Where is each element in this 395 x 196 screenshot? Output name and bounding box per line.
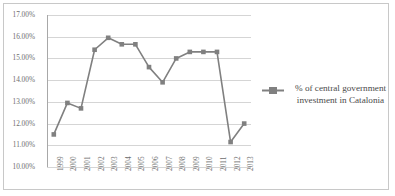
data-point-marker	[174, 56, 179, 61]
y-axis-tick-label: 16.00%	[0, 33, 35, 40]
data-point-marker	[147, 65, 152, 70]
data-point-marker	[52, 132, 57, 137]
x-axis-tick-label: 2001	[84, 156, 91, 171]
data-point-marker	[79, 106, 84, 111]
x-axis-tick-label: 2000	[70, 156, 77, 171]
legend-marker-icon	[262, 86, 284, 95]
data-point-marker	[92, 47, 97, 52]
data-point-marker	[160, 80, 165, 85]
series-line-chart	[47, 15, 251, 167]
data-point-marker	[120, 42, 125, 47]
y-axis-tick-label: 10.00%	[0, 163, 35, 170]
chart-legend: % of central government investment in Ca…	[262, 82, 395, 107]
x-axis-tick-label: 2013	[247, 156, 254, 171]
y-axis-tick-label: 12.00%	[0, 120, 35, 127]
y-axis-tick-label: 14.00%	[0, 76, 35, 83]
data-point-marker	[215, 50, 220, 55]
x-axis-tick-label: 2006	[152, 156, 159, 171]
x-axis-tick-label: 2009	[193, 156, 200, 171]
data-point-marker	[106, 36, 111, 41]
data-point-marker	[188, 50, 193, 55]
data-point-marker	[65, 101, 70, 106]
data-point-marker	[228, 140, 233, 145]
legend-label: % of central government investment in Ca…	[285, 82, 395, 107]
legend-entry: % of central government investment in Ca…	[262, 82, 395, 107]
data-point-marker	[133, 42, 138, 47]
x-axis-tick-label: 1999	[57, 156, 64, 171]
x-axis-tick-label: 2007	[166, 156, 173, 171]
plot-area	[47, 15, 251, 167]
data-point-marker	[242, 121, 247, 126]
x-axis-tick-label: 2004	[125, 156, 132, 171]
y-axis-tick-label: 15.00%	[0, 54, 35, 61]
y-axis-tick-label: 17.00%	[0, 11, 35, 18]
y-axis-tick-label: 11.00%	[0, 141, 35, 148]
x-axis-tick-label: 2011	[220, 157, 227, 171]
x-axis-tick-label: 2008	[179, 156, 186, 171]
x-axis-tick-label: 2012	[234, 156, 241, 171]
chart-container: 17.00%16.00%15.00%14.00%13.00%12.00%11.0…	[3, 3, 389, 190]
x-axis-tick-label: 2010	[206, 156, 213, 171]
y-axis-tick-label: 13.00%	[0, 98, 35, 105]
x-axis-tick-label: 2002	[98, 156, 105, 171]
x-axis-tick-label: 2003	[111, 156, 118, 171]
data-point-marker	[201, 50, 206, 55]
x-axis-tick-label: 2005	[138, 156, 145, 171]
